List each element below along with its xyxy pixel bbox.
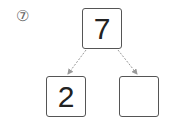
top-number-box: 7 — [82, 8, 122, 49]
arrow-right-icon — [118, 50, 137, 74]
bottom-left-number-box: 2 — [46, 76, 86, 117]
arrow-left-icon — [68, 50, 86, 74]
bottom-right-answer-box[interactable] — [119, 76, 159, 117]
